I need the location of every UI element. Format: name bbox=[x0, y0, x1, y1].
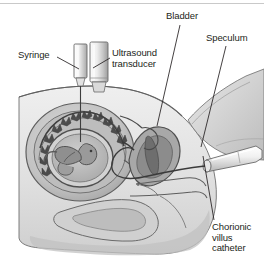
label-bladder: Bladder bbox=[166, 11, 198, 22]
syringe-barrel bbox=[74, 44, 87, 78]
syringe-hub bbox=[76, 78, 85, 86]
illustration-figure: Syringe Ultrasound transducer Bladder Sp… bbox=[0, 0, 264, 270]
label-speculum: Speculum bbox=[206, 33, 247, 44]
label-ultrasound-transducer: Ultrasound transducer bbox=[112, 48, 157, 69]
ultrasound-transducer bbox=[90, 42, 108, 92]
transducer-footprint bbox=[92, 82, 106, 92]
transducer-body bbox=[90, 42, 108, 82]
fetus-eye bbox=[90, 150, 93, 153]
label-syringe: Syringe bbox=[18, 50, 50, 61]
label-chorionic-villus-catheter: Chorionic villus catheter bbox=[212, 222, 251, 254]
